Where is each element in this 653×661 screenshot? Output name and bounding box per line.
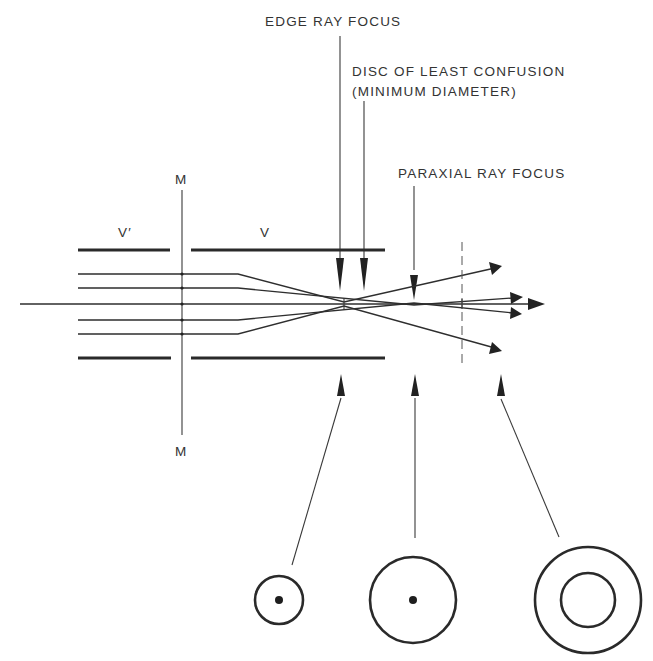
central-dot-icon <box>409 596 417 604</box>
minimum-diameter-label: (MINIMUM DIAMETER) <box>352 84 517 99</box>
cross-section-pointer-2 <box>411 374 419 538</box>
spot-paraxial-ray-focus <box>370 557 456 643</box>
m-bottom-label: M <box>175 444 187 459</box>
m-top-label: M <box>175 172 187 187</box>
paraxial-ray-top <box>78 288 513 305</box>
paraxial-ray-bottom <box>78 303 513 320</box>
spot-beyond-focus <box>535 547 641 653</box>
disc-least-confusion-pointer <box>360 101 368 291</box>
edge-ray-focus-pointer <box>336 36 344 291</box>
disc-of-least-confusion-label: DISC OF LEAST CONFUSION <box>352 64 565 79</box>
cross-section-pointer-3 <box>497 374 559 537</box>
paraxial-ray-focus-label: PARAXIAL RAY FOCUS <box>398 166 565 181</box>
arrowhead-down-icon <box>336 258 344 291</box>
arrowhead-icon <box>510 307 522 319</box>
edge-ray-bottom <box>78 306 495 348</box>
v-label: V <box>260 225 270 240</box>
cross-section-pointer-1 <box>292 374 345 565</box>
spherical-aberration-diagram: EDGE RAY FOCUS DISC OF LEAST CONFUSION (… <box>0 0 653 661</box>
arrowhead-icon <box>489 262 502 275</box>
arrowhead-icon <box>489 342 502 354</box>
arrowhead-right-icon <box>528 298 545 310</box>
arrowhead-icon <box>510 292 523 304</box>
arrowhead-down-icon <box>360 258 368 291</box>
central-dot-icon <box>275 596 283 604</box>
v-prime-label: V′ <box>118 225 132 240</box>
edge-ray-focus-label: EDGE RAY FOCUS <box>265 14 401 29</box>
ray-bundle <box>78 262 523 354</box>
paraxial-ray-focus-pointer <box>410 186 418 300</box>
spot-edge-ray-focus <box>255 576 303 624</box>
edge-ray-top <box>78 268 495 302</box>
